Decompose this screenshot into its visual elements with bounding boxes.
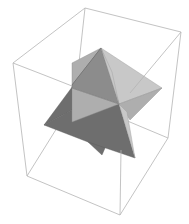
box-edge-right-vertical <box>168 32 181 138</box>
box-edge-top-left <box>13 8 85 63</box>
box-edge-top-right <box>85 8 181 32</box>
box-edge-front-vertical <box>120 150 121 215</box>
box-edge-left-vertical <box>13 63 27 176</box>
3d-plot <box>0 0 189 224</box>
box-edge-top-front-left-a <box>13 63 44 75</box>
box-edge-top-front-left-b <box>44 75 72 86</box>
box-edge-bottom-front-left <box>27 176 120 215</box>
star-polyhedron <box>44 48 162 158</box>
